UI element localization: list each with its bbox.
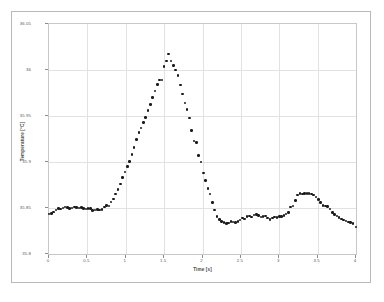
data-point xyxy=(142,121,145,124)
data-point xyxy=(188,117,191,120)
data-point xyxy=(319,201,322,204)
data-point xyxy=(172,64,175,67)
data-point xyxy=(195,141,198,144)
x-tick-label: 3 xyxy=(266,258,290,263)
data-point xyxy=(184,102,187,105)
data-point xyxy=(135,138,138,141)
data-point xyxy=(216,215,219,218)
data-point xyxy=(121,176,124,179)
y-tick-mark xyxy=(45,161,48,162)
data-point xyxy=(243,218,246,221)
y-tick-mark xyxy=(45,115,48,116)
y-tick-label: 36 xyxy=(26,67,31,72)
gridline-vertical xyxy=(241,24,242,254)
x-axis-title: Time [s] xyxy=(48,267,357,272)
data-point xyxy=(151,96,154,99)
data-point xyxy=(133,146,136,149)
data-point xyxy=(352,222,355,225)
data-point xyxy=(117,188,120,191)
x-tick-label: 0 xyxy=(36,258,60,263)
data-point xyxy=(128,160,131,163)
gridline-horizontal xyxy=(49,116,356,117)
data-point xyxy=(207,187,210,190)
x-tick-mark xyxy=(317,255,318,258)
data-point xyxy=(190,129,193,132)
y-axis-title: Temperature [°C] xyxy=(20,82,25,202)
data-point xyxy=(140,127,143,130)
data-point xyxy=(209,193,212,196)
y-tick-mark xyxy=(45,69,48,70)
y-tick-mark xyxy=(45,207,48,208)
x-tick-mark xyxy=(240,255,241,258)
x-tick-label: 3.5 xyxy=(305,258,329,263)
x-tick-mark xyxy=(278,255,279,258)
data-point xyxy=(161,79,164,82)
data-point xyxy=(294,199,297,202)
x-tick-label: 2.5 xyxy=(228,258,252,263)
data-point xyxy=(186,108,189,111)
data-point xyxy=(355,226,358,229)
data-point xyxy=(112,198,115,201)
data-point xyxy=(177,74,180,77)
x-tick-mark xyxy=(48,255,49,258)
gridline-horizontal xyxy=(49,70,356,71)
x-tick-label: 1.5 xyxy=(151,258,175,263)
y-tick-label: 36.05 xyxy=(20,21,31,26)
x-tick-mark xyxy=(125,255,126,258)
data-point xyxy=(204,179,207,182)
gridline-horizontal xyxy=(49,162,356,163)
gridline-vertical xyxy=(279,24,280,254)
x-tick-mark xyxy=(86,255,87,258)
data-point xyxy=(52,211,55,214)
y-tick-label: 35.85 xyxy=(20,205,31,210)
gridline-vertical xyxy=(318,24,319,254)
figure-container: 35.835.8535.935.953636.05 00.511.522.533… xyxy=(11,11,371,283)
x-tick-mark xyxy=(355,255,356,258)
data-point xyxy=(131,153,134,156)
y-tick-mark xyxy=(45,253,48,254)
x-tick-label: 2 xyxy=(190,258,214,263)
data-point xyxy=(181,93,184,96)
data-point xyxy=(167,53,170,56)
data-point xyxy=(119,183,122,186)
y-tick-label: 35.8 xyxy=(22,251,31,256)
data-point xyxy=(250,216,253,219)
data-point xyxy=(110,201,113,204)
data-point xyxy=(149,103,152,106)
data-point xyxy=(126,165,129,168)
x-tick-label: 4 xyxy=(343,258,367,263)
plot-area xyxy=(48,23,357,255)
data-point xyxy=(138,131,141,134)
data-point xyxy=(287,211,290,214)
gridline-vertical xyxy=(126,24,127,254)
data-point xyxy=(170,60,173,63)
x-tick-label: 1 xyxy=(113,258,137,263)
data-point xyxy=(202,172,205,175)
data-point xyxy=(179,84,182,87)
x-tick-mark xyxy=(202,255,203,258)
data-point xyxy=(114,193,117,196)
data-point xyxy=(154,90,157,93)
data-point xyxy=(197,154,200,157)
gridline-vertical xyxy=(203,24,204,254)
data-point xyxy=(329,208,332,211)
data-point xyxy=(147,109,150,112)
y-tick-mark xyxy=(45,23,48,24)
gridline-vertical xyxy=(164,24,165,254)
x-tick-mark xyxy=(163,255,164,258)
data-point xyxy=(156,83,159,86)
gridline-vertical xyxy=(87,24,88,254)
x-tick-label: 0.5 xyxy=(74,258,98,263)
data-point xyxy=(165,60,168,63)
data-point xyxy=(211,201,214,204)
data-point xyxy=(144,116,147,119)
data-point xyxy=(101,208,104,211)
data-point xyxy=(213,209,216,212)
